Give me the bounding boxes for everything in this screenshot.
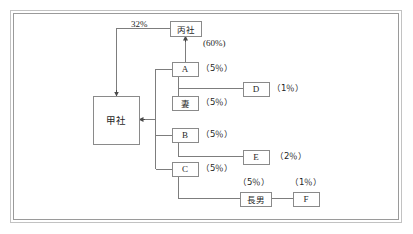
node-label-chonan: 長男 xyxy=(240,192,271,206)
node-label-tsuma: 妻 xyxy=(172,96,198,110)
diagram-canvas: 丙社 甲社 A 妻 B C D E 長男 F 32% (60%) （5％） （1… xyxy=(0,0,413,234)
annotation-a-5-percent: （5％） xyxy=(201,64,233,73)
diagram-lines xyxy=(0,0,413,234)
annotation-f-1-percent: （1％） xyxy=(290,178,322,187)
line-hei-to-kou xyxy=(117,29,171,91)
line-c-to-chonan xyxy=(179,176,241,199)
node-label-c: C xyxy=(172,162,198,176)
node-label-e: E xyxy=(243,150,269,164)
node-label-kou: 甲社 xyxy=(93,96,139,144)
line-b-to-e xyxy=(179,142,244,157)
node-label-f: F xyxy=(293,192,319,206)
node-label-d: D xyxy=(243,82,269,96)
annotation-e-2-percent: （2％） xyxy=(275,152,307,161)
annotation-c-5-percent: （5％） xyxy=(201,164,233,173)
annotation-32-percent: 32% xyxy=(131,20,148,29)
annotation-tsuma-5-percent: （5％） xyxy=(201,98,233,107)
annotation-d-1-percent: （1％） xyxy=(272,84,304,93)
node-label-a: A xyxy=(172,62,198,76)
annotation-b-5-percent: （5％） xyxy=(201,130,233,139)
node-label-hei: 丙社 xyxy=(170,21,201,36)
annotation-chonan-5-percent: （5％） xyxy=(238,178,270,187)
node-label-b: B xyxy=(172,128,198,142)
annotation-hei-60-percent: (60%) xyxy=(203,39,226,48)
